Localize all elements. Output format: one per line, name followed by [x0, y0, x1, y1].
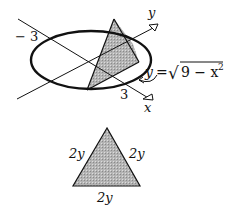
side-right-label: 2y — [128, 146, 145, 161]
svg-text:y: y — [144, 64, 154, 80]
svg-text:√: √ — [168, 63, 179, 83]
x-axis-label: x — [144, 100, 152, 115]
cross-section-triangle — [87, 19, 139, 90]
y-axis-label: y — [147, 5, 156, 20]
curve-equation: y = √ 9 − x 2 — [144, 62, 224, 83]
svg-text:9 − x: 9 − x — [181, 64, 219, 80]
side-left-label: 2y — [68, 146, 85, 161]
label-negative-three: − 3 — [15, 29, 38, 44]
side-base-label: 2y — [96, 190, 113, 205]
solid-cross-section-diagram: y x − 3 3 y = √ 9 − x 2 2y 2y 2y — [0, 0, 233, 208]
svg-text:2: 2 — [218, 62, 224, 72]
label-three: 3 — [120, 87, 128, 102]
svg-text:=: = — [156, 64, 168, 80]
